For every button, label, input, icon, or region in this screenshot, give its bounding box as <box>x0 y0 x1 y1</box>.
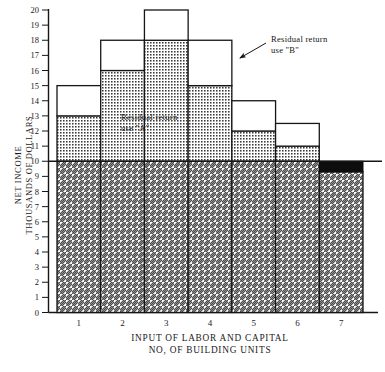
bar-group <box>232 101 276 313</box>
y-tick-label: 17 <box>31 50 40 60</box>
y-tick-label: 15 <box>31 81 40 91</box>
y-tick-label: 19 <box>31 20 40 30</box>
x-tick-label: 7 <box>339 318 344 328</box>
y-tick-label: 3 <box>35 262 39 272</box>
annotation-a-line1: Residual return <box>121 112 178 122</box>
y-axis-title-line2: THOUSANDS OF DOLLARS <box>24 116 34 235</box>
bar-segment-residual-a <box>232 131 276 161</box>
bar-segment-base <box>276 161 320 312</box>
bar-group <box>188 40 232 312</box>
bar-segment-residual-b <box>144 10 188 40</box>
y-tick-label: 20 <box>31 5 40 15</box>
y-tick-label: 14 <box>31 96 40 106</box>
y-tick-label: 5 <box>35 232 39 242</box>
x-tick-label: 1 <box>77 318 82 328</box>
bar-segment-residual-b <box>276 123 320 146</box>
y-tick-label: 7 <box>35 202 39 212</box>
bar-group <box>57 86 101 313</box>
bar-segment-residual-a <box>57 116 101 161</box>
x-tick-label: 3 <box>164 318 169 328</box>
bar-segment-residual-a <box>276 146 320 161</box>
bar-group <box>101 40 145 312</box>
bar-segment-residual-b <box>57 86 101 116</box>
x-tick-label: 6 <box>295 318 300 328</box>
y-tick-label: 0 <box>35 308 39 318</box>
y-tick-label: 1 <box>35 292 39 302</box>
annotation-a-line2: use "A" <box>121 123 150 133</box>
bar-segment-residual-b <box>232 101 276 131</box>
bar-segment-negative <box>319 161 363 172</box>
bar-segment-base <box>57 161 101 312</box>
bar-segment-residual-a <box>144 40 188 161</box>
y-tick-label: 2 <box>35 277 39 287</box>
x-axis-title-line2: NO, OF BUILDING UNITS <box>149 345 272 355</box>
y-axis-title-line1: NET INCOME <box>13 146 23 205</box>
bar-segment-base <box>319 172 363 313</box>
chart-svg: 01234567891011121314151617181920 1234567… <box>0 0 385 372</box>
bar-segment-base <box>101 161 145 312</box>
bar-segment-base <box>188 161 232 312</box>
bar-group <box>319 161 363 312</box>
bar-segment-residual-b <box>188 40 232 85</box>
y-tick-label: 8 <box>35 187 39 197</box>
bar-segment-base <box>232 161 276 312</box>
bar-segment-residual-b <box>101 40 145 70</box>
y-tick-label: 6 <box>35 217 39 227</box>
x-axis-title-line1: INPUT OF LABOR AND CAPITAL <box>131 333 289 343</box>
annotation-b-line1: Residual return <box>271 34 328 44</box>
x-tick-label: 4 <box>208 318 213 328</box>
y-tick-label: 9 <box>35 171 39 181</box>
y-tick-label: 18 <box>31 35 40 45</box>
x-tick-label: 2 <box>120 318 125 328</box>
x-tick-label: 5 <box>251 318 256 328</box>
y-tick-label: 16 <box>31 66 40 76</box>
annotation-b-line2: use "B" <box>271 45 299 55</box>
bar-segment-base <box>144 161 188 312</box>
chart-figure: 01234567891011121314151617181920 1234567… <box>0 0 385 372</box>
bar-segment-residual-a <box>188 86 232 162</box>
bar-group <box>276 123 320 312</box>
